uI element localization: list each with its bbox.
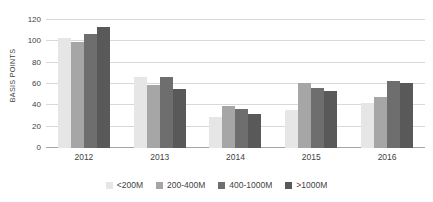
legend-label: 400-1000M <box>229 180 272 190</box>
bar <box>248 114 261 148</box>
bar <box>235 109 248 148</box>
y-tick-label: 0 <box>37 143 41 152</box>
bar <box>324 91 337 148</box>
legend-swatch-icon <box>285 182 292 189</box>
bar-group <box>46 20 122 148</box>
chart-legend: <200M200-400M400-1000M>1000M <box>0 180 433 190</box>
y-axis-title-label: BASIS POINTS <box>9 48 18 102</box>
bar <box>58 38 71 148</box>
bar <box>222 106 235 148</box>
legend-item[interactable]: 200-400M <box>156 180 205 190</box>
bar <box>285 110 298 148</box>
y-axis-title: BASIS POINTS <box>4 0 22 150</box>
bar <box>374 97 387 148</box>
legend-swatch-icon <box>156 182 163 189</box>
bar-chart: BASIS POINTS 020406080100120 20122013201… <box>0 0 433 202</box>
bars-layer <box>46 20 425 148</box>
y-tick-label: 120 <box>28 15 41 24</box>
bar <box>298 83 311 148</box>
legend-item[interactable]: 400-1000M <box>218 180 272 190</box>
legend-swatch-icon <box>218 182 225 189</box>
legend-label: 200-400M <box>167 180 205 190</box>
legend-swatch-icon <box>106 182 113 189</box>
x-tick-label: 2012 <box>46 152 122 162</box>
x-axis-labels: 20122013201420152016 <box>46 152 425 162</box>
bar <box>147 85 160 148</box>
bar-group <box>122 20 198 148</box>
y-tick-label: 20 <box>32 121 41 130</box>
bar <box>173 89 186 148</box>
bar-group <box>198 20 274 148</box>
bar-group <box>349 20 425 148</box>
legend-item[interactable]: >1000M <box>285 180 327 190</box>
bar <box>311 88 324 148</box>
legend-label: >1000M <box>296 180 327 190</box>
bar <box>84 34 97 148</box>
bar <box>71 42 84 148</box>
bar-group <box>273 20 349 148</box>
bar <box>361 103 374 148</box>
bar <box>209 117 222 148</box>
x-tick-label: 2013 <box>122 152 198 162</box>
x-tick-label: 2016 <box>349 152 425 162</box>
y-tick-label: 40 <box>32 100 41 109</box>
y-tick-label: 60 <box>32 79 41 88</box>
bar <box>134 77 147 148</box>
y-tick-label: 100 <box>28 36 41 45</box>
x-tick-label: 2014 <box>198 152 274 162</box>
bar <box>160 77 173 148</box>
y-tick-label: 80 <box>32 57 41 66</box>
bar <box>387 81 400 148</box>
legend-item[interactable]: <200M <box>106 180 143 190</box>
x-tick-label: 2015 <box>273 152 349 162</box>
bar <box>97 27 110 148</box>
plot-area: 020406080100120 <box>46 20 425 148</box>
legend-label: <200M <box>117 180 143 190</box>
bar <box>400 83 413 148</box>
